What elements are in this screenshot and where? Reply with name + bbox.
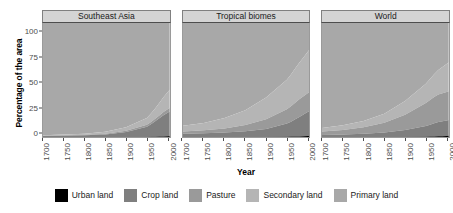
x-tick-mark: [363, 138, 364, 141]
x-tick-mark: [405, 138, 406, 141]
panel-title: Tropical biomes: [216, 11, 276, 21]
x-tick-mark: [321, 138, 322, 141]
x-tick-mark: [266, 138, 267, 141]
x-tick-mark: [42, 138, 43, 141]
chart-panel: Tropical biomes: [182, 10, 311, 138]
x-tick-label: 2000: [308, 143, 317, 161]
plot-area: [182, 23, 311, 138]
plot-area: [42, 23, 171, 138]
x-tick-mark: [426, 138, 427, 141]
x-tick-mark: [342, 138, 343, 141]
y-axis: 0255075100: [16, 28, 42, 136]
x-tick-label: 2000: [169, 143, 178, 161]
x-axis-panel: 1700175018001850190019502000: [42, 138, 171, 168]
x-tick-mark: [84, 138, 85, 141]
legend-swatch-icon: [55, 189, 68, 202]
x-tick-label: 1750: [342, 143, 351, 161]
x-tick-label: 1750: [203, 143, 212, 161]
x-tick-mark: [126, 138, 127, 141]
y-tick-label: 75: [29, 52, 38, 61]
y-tick-label: 25: [29, 103, 38, 112]
x-axis-title: Year: [42, 167, 450, 177]
x-tick-label: 1850: [385, 143, 394, 161]
x-axis-panel: 1700175018001850190019502000: [321, 138, 450, 168]
figure: Percentage of the area 0255075100 Southe…: [0, 0, 453, 213]
legend-swatch-icon: [246, 189, 259, 202]
x-tick-label: 1950: [287, 143, 296, 161]
x-tick-mark: [223, 138, 224, 141]
x-tick-mark: [202, 138, 203, 141]
panel-title: World: [375, 11, 397, 21]
x-tick-label: 1700: [182, 143, 191, 161]
legend-item[interactable]: Primary land: [334, 189, 399, 202]
legend-label: Primary land: [351, 190, 399, 200]
x-tick-mark: [384, 138, 385, 141]
x-tick-label: 1900: [406, 143, 415, 161]
x-tick-label: 2000: [448, 143, 453, 161]
x-axis-panel: 1700175018001850190019502000: [182, 138, 311, 168]
x-tick-mark: [168, 138, 169, 141]
x-tick-mark: [181, 138, 182, 141]
y-tick-label: 100: [25, 27, 38, 36]
panel-title-strip: Tropical biomes: [182, 10, 311, 23]
x-tick-mark: [244, 138, 245, 141]
panel-title-strip: Southeast Asia: [42, 10, 171, 23]
chart-panel: World: [321, 10, 450, 138]
legend-item[interactable]: Urban land: [55, 189, 114, 202]
x-tick-label: 1700: [42, 143, 51, 161]
legend-swatch-icon: [334, 189, 347, 202]
y-tick-label: 50: [29, 78, 38, 87]
legend-swatch-icon: [189, 189, 202, 202]
x-tick-label: 1950: [147, 143, 156, 161]
x-tick-mark: [287, 138, 288, 141]
legend-label: Pasture: [206, 190, 235, 200]
x-axis: 1700175018001850190019502000170017501800…: [42, 138, 450, 168]
x-tick-mark: [105, 138, 106, 141]
legend: Urban landCrop landPastureSecondary land…: [0, 184, 453, 206]
x-tick-label: 1900: [126, 143, 135, 161]
x-tick-label: 1800: [84, 143, 93, 161]
legend-label: Urban land: [72, 190, 114, 200]
x-tick-label: 1750: [63, 143, 72, 161]
x-tick-label: 1850: [105, 143, 114, 161]
legend-item[interactable]: Pasture: [189, 189, 235, 202]
legend-item[interactable]: Secondary land: [246, 189, 322, 202]
legend-item[interactable]: Crop land: [124, 189, 178, 202]
legend-label: Secondary land: [263, 190, 322, 200]
legend-label: Crop land: [141, 190, 178, 200]
x-tick-label: 1850: [245, 143, 254, 161]
x-tick-label: 1800: [224, 143, 233, 161]
x-tick-label: 1950: [427, 143, 436, 161]
x-tick-label: 1900: [266, 143, 275, 161]
x-tick-mark: [447, 138, 448, 141]
x-tick-mark: [63, 138, 64, 141]
x-tick-label: 1800: [364, 143, 373, 161]
panel-title-strip: World: [321, 10, 450, 23]
y-tick-label: 0: [34, 129, 38, 138]
x-tick-mark: [147, 138, 148, 141]
panel-title: Southeast Asia: [78, 11, 135, 21]
x-tick-label: 1700: [321, 143, 330, 161]
panel-row: Southeast AsiaTropical biomesWorld: [42, 10, 450, 138]
legend-swatch-icon: [124, 189, 137, 202]
plot-area: [321, 23, 450, 138]
x-tick-mark: [308, 138, 309, 141]
chart-panel: Southeast Asia: [42, 10, 171, 138]
